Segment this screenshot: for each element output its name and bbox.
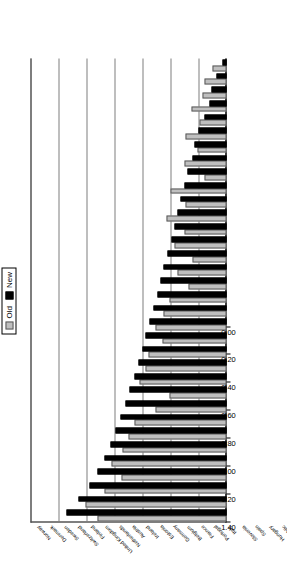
bar-old [85,501,226,507]
legend-item-old: Old [4,306,13,329]
bar-old [169,392,226,398]
bar-old [139,379,226,385]
axis-tick-label: 0.40 [221,382,236,391]
bar-new [110,441,226,447]
bar-old [111,460,226,466]
bar-new [153,305,226,311]
bar-new [187,168,226,174]
bar-group [30,372,226,386]
axis-tick-label: 0.00 [221,327,236,336]
bar-group [30,413,226,427]
bar-group [30,85,226,99]
bar-new [125,400,226,406]
bar-new [89,482,226,488]
bar-new [209,100,226,106]
axis-tick-label: 1.00 [221,466,236,475]
bar-old [188,283,226,289]
bar-group [30,467,226,481]
bar-new [142,346,226,352]
bar-group [30,276,226,290]
bar-old [122,447,226,453]
legend-label-old: Old [4,306,13,318]
bar-new [145,332,226,338]
bar-new [171,236,226,242]
bar-new [129,386,226,392]
bar-new [184,182,226,188]
bar-new [160,277,226,283]
bar-old [212,65,226,71]
legend-item-new: New [4,272,13,299]
bar-old [104,488,226,494]
bar-group [30,235,226,249]
legend-swatch-old [5,321,13,329]
value-axis: 0.000.200.400.600.801.001.201.40 [226,58,270,522]
bar-old [162,338,226,344]
bar-old [197,147,226,153]
bar-old [163,310,226,316]
bar-new [138,359,226,365]
bar-old [184,160,226,166]
bar-old [192,256,226,262]
bar-new [180,196,226,202]
bar-new [198,127,226,133]
bar-group [30,344,226,358]
bar-old [97,515,226,521]
bar-new [104,455,226,461]
bar-new [216,73,226,79]
bar-group [30,113,226,127]
bar-group [30,385,226,399]
bar-old [185,133,226,139]
bar-group [30,426,226,440]
bar-new [163,264,226,270]
bar-new [115,427,226,433]
bar-old [185,201,226,207]
bar-group [30,126,226,140]
bar-new [97,468,226,474]
bar-group [30,399,226,413]
bar-groups [30,58,226,522]
bar-new [192,155,226,161]
bar-new [78,496,226,502]
bar-old [155,324,226,330]
bar-group [30,208,226,222]
chart-figure: Old New 0.000.200.400.600.801.001.201.40… [0,0,287,570]
bar-new [211,86,226,92]
legend-label-new: New [4,272,13,288]
axis-tick-label: 0.60 [221,410,236,419]
axis-tick-label: 0.20 [221,354,236,363]
bar-group [30,440,226,454]
bar-group [30,222,226,236]
bar-group [30,317,226,331]
bar-old [199,119,226,125]
bar-old [155,406,226,412]
bar-old [145,365,226,371]
bar-group [30,304,226,318]
bar-old [177,269,226,275]
bar-group [30,99,226,113]
bar-group [30,194,226,208]
bar-group [30,358,226,372]
bar-new [167,250,226,256]
bar-old [202,92,226,98]
bar-group [30,58,226,72]
bar-old [169,297,226,303]
bar-group [30,508,226,522]
bar-new [204,114,226,120]
bar-new [120,414,226,420]
bar-old [166,215,226,221]
bar-group [30,263,226,277]
bar-new [66,509,226,515]
bar-new [177,209,226,215]
plot-area [30,58,226,522]
bar-new [149,318,226,324]
bar-group [30,495,226,509]
bar-old [191,106,226,112]
bar-group [30,290,226,304]
category-axis: MoldovaAlbaniaUkraineBosnia and Herzegov… [30,522,226,570]
bar-group [30,454,226,468]
bar-group [30,181,226,195]
bar-old [134,419,226,425]
bar-old [204,78,226,84]
bar-old [148,351,226,357]
axis-tick-label: 1.20 [221,494,236,503]
